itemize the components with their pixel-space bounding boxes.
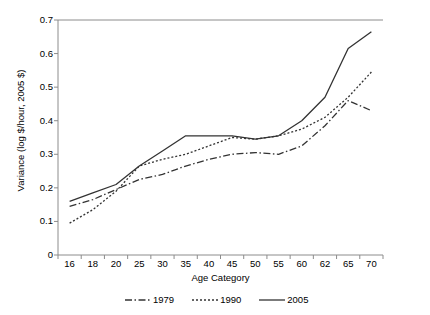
x-tick-label: 16 xyxy=(58,258,82,269)
x-tick-label: 62 xyxy=(313,258,337,269)
legend-entry-2005[interactable]: 2005 xyxy=(259,295,308,305)
series-line-2005 xyxy=(70,32,372,202)
x-tick-label: 20 xyxy=(104,258,128,269)
x-tick-label: 18 xyxy=(81,258,105,269)
x-tick-label: 60 xyxy=(290,258,314,269)
legend-swatch-1990 xyxy=(192,296,218,304)
legend-label-1990: 1990 xyxy=(220,295,241,305)
chart-legend: 197919902005 xyxy=(125,291,355,309)
legend-entry-1979[interactable]: 1979 xyxy=(125,295,174,305)
x-tick-label: 35 xyxy=(174,258,198,269)
x-tick-label: 70 xyxy=(359,258,383,269)
legend-entry-1990[interactable]: 1990 xyxy=(192,295,241,305)
x-tick-label: 55 xyxy=(267,258,291,269)
x-tick-label: 45 xyxy=(220,258,244,269)
x-tick-label: 30 xyxy=(150,258,174,269)
chart-figure: Variance (log $/hour, 2005 $) 00.10.20.3… xyxy=(0,0,430,315)
legend-label-2005: 2005 xyxy=(287,295,308,305)
legend-swatch-2005 xyxy=(259,296,285,304)
legend-label-1979: 1979 xyxy=(153,295,174,305)
x-tick-label: 25 xyxy=(127,258,151,269)
series-line-1979 xyxy=(70,101,372,207)
x-tick-label: 50 xyxy=(243,258,267,269)
y-axis-ticks xyxy=(54,20,58,255)
x-axis-title: Age Category xyxy=(58,272,383,284)
legend-swatch-1979 xyxy=(125,296,151,304)
axis-lines xyxy=(58,20,383,255)
x-tick-label: 65 xyxy=(336,258,360,269)
data-series-lines xyxy=(70,32,372,223)
x-tick-label: 40 xyxy=(197,258,221,269)
